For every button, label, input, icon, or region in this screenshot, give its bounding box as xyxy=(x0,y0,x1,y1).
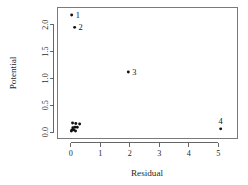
y-tick-label-3: 1.5 xyxy=(41,46,50,56)
x-tick-label-2: 2 xyxy=(128,149,132,158)
data-point-labeled-4 xyxy=(219,127,222,130)
x-tick-label-0: 0 xyxy=(69,149,73,158)
data-point xyxy=(74,130,77,133)
point-label-3: 3 xyxy=(132,68,136,77)
plot-frame xyxy=(58,8,238,139)
y-tick-label-0: 0.0 xyxy=(41,127,50,137)
data-point-labeled-3 xyxy=(127,70,130,73)
x-tick-label-3: 3 xyxy=(157,149,161,158)
y-tick-label-2: 1.0 xyxy=(41,73,50,83)
plot-canvas: 012345 0.00.51.01.52.0 1234 Residual Pot… xyxy=(0,0,248,185)
data-point xyxy=(76,126,79,129)
data-point-labeled-2 xyxy=(73,26,76,29)
point-labels: 1234 xyxy=(76,11,224,126)
y-axis-title: Potential xyxy=(8,56,18,89)
data-point xyxy=(74,122,77,125)
point-label-4: 4 xyxy=(219,117,224,126)
x-tick-label-5: 5 xyxy=(216,149,220,158)
scatter-plot-figure: 012345 0.00.51.01.52.0 1234 Residual Pot… xyxy=(0,0,248,185)
data-point xyxy=(78,123,81,126)
x-axis-title: Residual xyxy=(131,168,164,178)
point-label-2: 2 xyxy=(79,23,83,32)
data-point xyxy=(71,121,74,124)
data-point xyxy=(70,130,73,133)
data-point-labeled-1 xyxy=(70,14,73,17)
y-tick-label-1: 0.5 xyxy=(41,100,50,110)
x-tick-label-4: 4 xyxy=(187,149,191,158)
y-axis-ticks: 0.00.51.01.52.0 xyxy=(41,20,54,138)
data-points xyxy=(70,14,222,133)
y-tick-label-4: 2.0 xyxy=(41,20,50,30)
x-tick-label-1: 1 xyxy=(98,149,102,158)
point-label-1: 1 xyxy=(76,11,80,20)
x-axis-ticks: 012345 xyxy=(69,143,221,158)
